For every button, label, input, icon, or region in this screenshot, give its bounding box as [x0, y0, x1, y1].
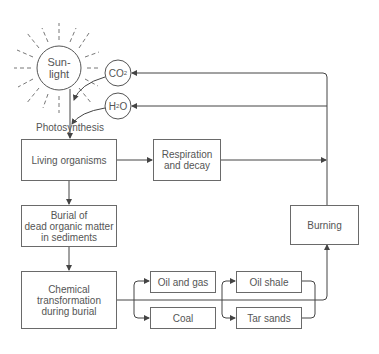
node-oil-shale: Oil shale [236, 271, 302, 293]
co2-label: CO2 [105, 60, 131, 86]
h2o-label: H2O [105, 93, 131, 119]
node-burning: Burning [290, 205, 359, 245]
node-living-organisms: Living organisms [21, 139, 117, 181]
node-oil-gas: Oil and gas [150, 271, 216, 293]
photosynthesis-label: Photosynthesis [30, 122, 110, 133]
sun-label: Sun- light [37, 46, 81, 90]
node-chemical-transformation: Chemical transformation during burial [21, 271, 117, 329]
node-coal: Coal [150, 307, 216, 329]
node-respiration-decay: Respiration and decay [153, 139, 221, 181]
node-tar-sands: Tar sands [236, 307, 302, 329]
node-burial: Burial of dead organic matter in sedimen… [21, 205, 117, 247]
